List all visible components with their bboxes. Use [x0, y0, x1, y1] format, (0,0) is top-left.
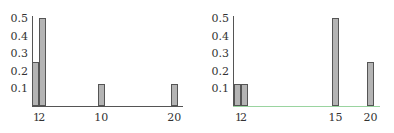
x-axis [233, 106, 380, 107]
left-bar-chart: 0.10.20.30.40.5121020 [0, 0, 197, 133]
bar [32, 62, 39, 106]
bar [332, 18, 339, 106]
bar [171, 84, 178, 106]
y-tick-label: 0.3 [205, 48, 229, 59]
y-tick-label: 0.1 [205, 83, 229, 94]
bar [241, 84, 248, 106]
y-tick-label: 0.3 [4, 48, 28, 59]
y-tick-label: 0.2 [4, 66, 28, 77]
x-tick-label: 15 [326, 112, 346, 123]
x-tick-label: 20 [164, 112, 184, 123]
y-tick-label: 0.5 [4, 13, 28, 24]
x-tick-label: 2 [32, 112, 52, 123]
y-tick-label: 0.5 [205, 13, 229, 24]
bar [234, 84, 241, 106]
x-tick-label: 20 [361, 112, 381, 123]
x-tick-label: 10 [91, 112, 111, 123]
bar [98, 84, 105, 106]
x-tick-label: 2 [234, 112, 254, 123]
y-tick-label: 0.2 [205, 66, 229, 77]
y-tick-label: 0.1 [4, 83, 28, 94]
right-bar-chart: 0.10.20.30.40.5121520 [197, 0, 394, 133]
x-axis [32, 106, 183, 107]
bar [39, 18, 46, 106]
y-tick-label: 0.4 [4, 31, 28, 42]
y-tick-label: 0.4 [205, 31, 229, 42]
bar [367, 62, 374, 106]
